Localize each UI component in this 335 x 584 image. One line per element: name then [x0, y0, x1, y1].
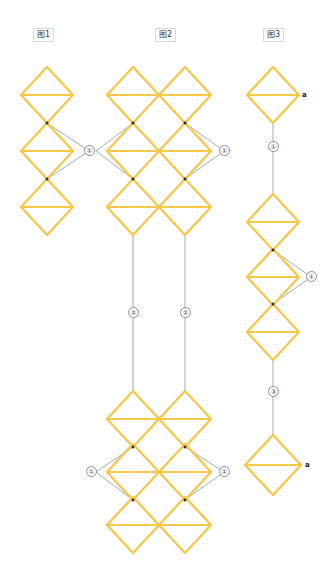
c2b-d6 — [159, 497, 211, 553]
badge-c2b-1b: ① — [219, 466, 230, 477]
c2a-d4 — [107, 391, 159, 447]
badge-c3-2: ① — [306, 271, 317, 282]
c2b-d1 — [159, 67, 211, 123]
c2b-edge-lower — [185, 151, 224, 179]
diagram-canvas: 图1图2图3①①②②①①①①③aa — [0, 0, 335, 584]
c2a-d1 — [107, 67, 159, 123]
c3-d4 — [247, 304, 299, 360]
c3-d2 — [247, 194, 299, 250]
c2a-d5 — [107, 444, 159, 500]
c2a-edge2-lower — [96, 472, 133, 500]
c2b-d3 — [159, 179, 211, 235]
badge-c2a-1b: ① — [86, 466, 97, 477]
c2b-vertex2-upper — [184, 446, 187, 449]
c2b-edge-upper — [185, 123, 224, 151]
c3-vertex-upper — [272, 249, 275, 252]
c3-d3 — [247, 249, 299, 305]
c2a-edge-lower — [96, 151, 133, 179]
c2a-d6 — [107, 497, 159, 553]
c2a-vertex-lower — [132, 178, 135, 181]
c1-d1 — [21, 67, 73, 123]
c2a-vertex2-upper — [132, 446, 135, 449]
c2a-vertex-upper — [132, 122, 135, 125]
column-label-figure-2: 图2 — [155, 28, 176, 42]
badge-c2b-2: ② — [180, 307, 191, 318]
tag-c3-bottom: a — [305, 461, 310, 469]
badge-c3-1: ① — [268, 141, 279, 152]
c2b-vertex-upper — [184, 122, 187, 125]
c2b-d2 — [159, 123, 211, 179]
c3-vertex-lower — [272, 303, 275, 306]
c2b-d5 — [159, 444, 211, 500]
c2a-vertex2-lower — [132, 499, 135, 502]
c2b-vertex2-lower — [184, 499, 187, 502]
c2b-d4 — [159, 391, 211, 447]
badge-c1-1: ① — [84, 145, 95, 156]
tag-c3-top: a — [302, 91, 307, 99]
badge-c2a-2: ② — [128, 307, 139, 318]
c1-d2 — [21, 123, 73, 179]
c1-vertex-lower — [46, 178, 49, 181]
c1-vertex-upper — [46, 122, 49, 125]
c2a-edge-upper — [96, 123, 133, 151]
c3-d5 — [245, 435, 301, 495]
diagram-svg — [0, 0, 335, 584]
column-label-figure-3: 图3 — [263, 28, 284, 42]
badge-c2b-1: ① — [219, 145, 230, 156]
column-label-figure-1: 图1 — [33, 28, 54, 42]
c1-d3 — [21, 179, 73, 235]
c2a-d2 — [107, 123, 159, 179]
c2b-vertex-lower — [184, 178, 187, 181]
c2a-d3 — [107, 179, 159, 235]
badge-c3-3: ③ — [268, 386, 279, 397]
c2b-edge2-lower — [185, 472, 224, 500]
c3-d1 — [247, 67, 299, 123]
